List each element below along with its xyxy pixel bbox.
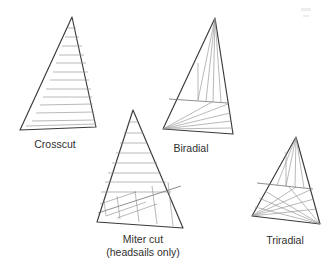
scan-artifact <box>301 8 311 11</box>
triradial-label: Triradial <box>266 234 304 246</box>
miter-cut-sublabel: (headsails only) <box>106 246 180 258</box>
miter-cut-label: Miter cut <box>123 233 163 245</box>
sail-cut-diagram: Crosscut <box>0 0 336 269</box>
crosscut-label: Crosscut <box>34 138 76 150</box>
scan-artifact-secondary <box>303 15 309 17</box>
biradial-label: Biradial <box>173 142 208 154</box>
diagram-background <box>0 0 336 269</box>
sail-diagram-canvas: Crosscut <box>0 0 336 269</box>
